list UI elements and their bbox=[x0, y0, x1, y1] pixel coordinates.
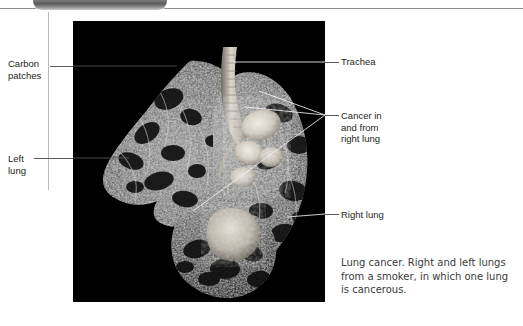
leader-line-right-lung bbox=[325, 214, 339, 215]
figure-caption: Lung cancer. Right and left lungs from a… bbox=[341, 256, 519, 297]
lung-specimen-image bbox=[73, 21, 325, 302]
page-watermark bbox=[120, 303, 290, 323]
annotation-label-left-lung: Left lung bbox=[8, 153, 64, 176]
leader-line-cancer bbox=[325, 115, 339, 116]
header-tab[interactable] bbox=[33, 0, 167, 10]
annotation-label-cancer-right-lung: Cancer in and from right lung bbox=[341, 110, 431, 145]
annotation-label-right-lung: Right lung bbox=[341, 209, 431, 221]
leader-line-trachea bbox=[325, 62, 339, 63]
annotation-label-carbon-patches: Carbon patches bbox=[8, 58, 64, 81]
annotation-label-trachea: Trachea bbox=[341, 56, 431, 68]
lung-photograph bbox=[73, 21, 325, 302]
